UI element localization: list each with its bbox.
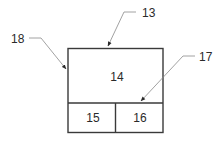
block-15-label: 15 xyxy=(86,111,100,125)
leader-17-arrow xyxy=(141,56,195,101)
callout-17-label: 17 xyxy=(199,50,213,64)
block-14-label: 14 xyxy=(110,70,124,84)
diagram-canvas: 14 15 16 13 18 17 xyxy=(0,0,217,143)
callout-18-label: 18 xyxy=(11,32,25,46)
block-16-label: 16 xyxy=(133,111,147,125)
leader-18-arrow xyxy=(29,38,66,69)
callout-13-label: 13 xyxy=(142,6,156,20)
leader-13-arrow xyxy=(108,12,136,46)
